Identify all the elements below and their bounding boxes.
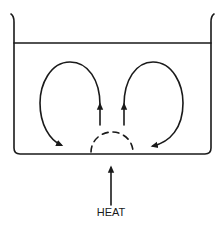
- beaker-outline: [11, 14, 214, 154]
- left-loop-curve: [40, 62, 100, 145]
- heat-label: HEAT: [97, 206, 126, 218]
- convection-loop-right: [124, 62, 183, 146]
- convection-loop-left: [40, 62, 100, 145]
- heat-zone-dashed-semicircle: [91, 132, 133, 152]
- convection-diagram: HEAT: [0, 0, 223, 228]
- beaker: [11, 14, 214, 154]
- right-loop-curve: [124, 62, 183, 146]
